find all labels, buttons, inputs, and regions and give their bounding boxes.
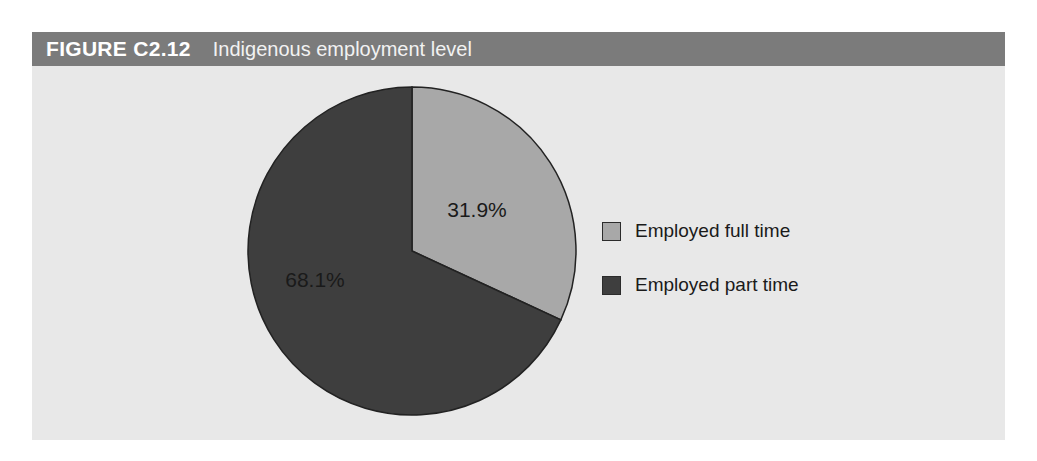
slice-label-employed-full-time: 31.9% (447, 198, 507, 221)
figure-title-bar: FIGURE C2.12 Indigenous employment level (32, 32, 1005, 66)
figure-title-label: Indigenous employment level (213, 38, 472, 61)
figure-container: FIGURE C2.12 Indigenous employment level… (0, 0, 1037, 461)
legend-item-employed-part-time[interactable]: Employed part time (602, 272, 932, 298)
figure-number-label: FIGURE C2.12 (46, 37, 191, 61)
chart-plot-area: 31.9% 68.1% Employed full time Employed … (32, 66, 1005, 440)
legend-item-label: Employed full time (635, 220, 790, 242)
legend-item-label: Employed part time (635, 274, 799, 296)
legend-swatch-icon (602, 222, 621, 241)
slice-label-employed-part-time: 68.1% (285, 268, 345, 291)
legend-item-employed-full-time[interactable]: Employed full time (602, 218, 932, 244)
pie-slice-group (248, 87, 576, 415)
legend-swatch-icon (602, 276, 621, 295)
pie-chart: 31.9% 68.1% (232, 76, 592, 426)
chart-legend: Employed full time Employed part time (602, 218, 932, 326)
